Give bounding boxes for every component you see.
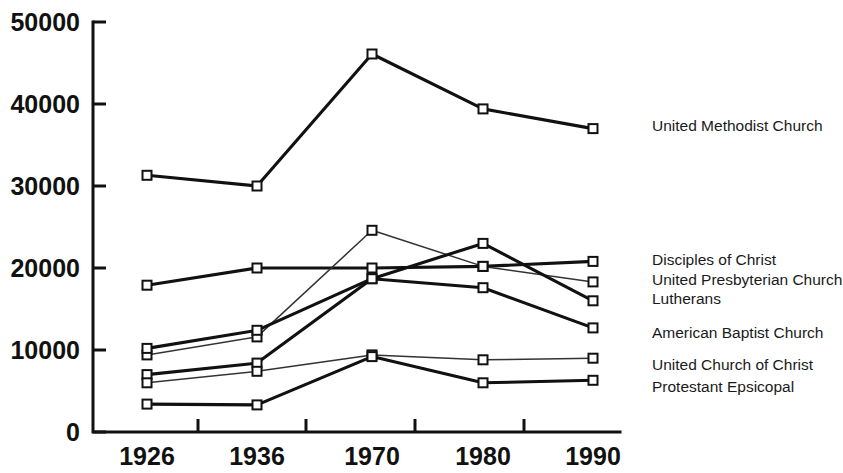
legend-label: American Baptist Church	[652, 324, 823, 341]
data-point-marker	[479, 239, 488, 248]
legend-label: Protestant Epsicopal	[652, 378, 794, 395]
series-line	[147, 357, 593, 405]
data-point-marker	[253, 264, 262, 273]
data-point-marker	[589, 376, 598, 385]
y-axis-tick-label: 0	[66, 418, 80, 446]
data-point-marker	[253, 400, 262, 409]
data-point-marker	[589, 277, 598, 286]
data-point-marker	[368, 352, 377, 361]
y-axis-tick-label: 40000	[10, 90, 80, 118]
series-line	[147, 243, 593, 348]
x-axis-tick-label: 1970	[344, 442, 400, 470]
data-point-marker	[589, 257, 598, 266]
x-axis-tick-label: 1936	[229, 442, 285, 470]
legend-label: United Methodist Church	[652, 117, 823, 134]
legend-label: United Church of Christ	[652, 356, 813, 373]
y-axis-tick-label: 30000	[10, 172, 80, 200]
x-axis-tick-label: 1980	[455, 442, 511, 470]
legend-label: Lutherans	[652, 290, 721, 307]
data-point-marker	[589, 124, 598, 133]
data-point-marker	[589, 323, 598, 332]
legend-label: Disciples of Christ	[652, 251, 776, 268]
x-axis-tick-labels: 19261936197019801990	[119, 442, 621, 470]
x-axis-tick-label: 1990	[565, 442, 621, 470]
legend-item-3: United Presbyterian Church	[652, 271, 842, 289]
x-axis-ticks	[198, 419, 524, 432]
legend-label: United Presbyterian Church	[652, 271, 842, 288]
data-point-marker	[143, 400, 152, 409]
legend-item-5: American Baptist Church	[652, 324, 823, 342]
data-point-marker	[479, 355, 488, 364]
y-axis-tick-label: 20000	[10, 254, 80, 282]
legend-item-6: United Church of Christ	[652, 356, 813, 374]
legend-item-7: Protestant Epsicopal	[652, 378, 794, 396]
data-point-marker	[143, 281, 152, 290]
y-axis-tick-label: 50000	[10, 8, 80, 36]
data-point-marker	[479, 283, 488, 292]
legend-item-4: Lutherans	[652, 290, 721, 308]
data-point-marker	[143, 344, 152, 353]
data-point-marker	[143, 378, 152, 387]
data-point-marker	[368, 226, 377, 235]
line-chart: 01000020000300004000050000 1926193619701…	[0, 0, 843, 473]
chart-marker-layer	[143, 50, 598, 410]
data-point-marker	[253, 367, 262, 376]
data-point-marker	[368, 50, 377, 59]
y-axis-tick-labels: 01000020000300004000050000	[10, 8, 80, 446]
data-point-marker	[479, 378, 488, 387]
data-point-marker	[479, 104, 488, 113]
data-point-marker	[589, 354, 598, 363]
legend-item-2: Disciples of Christ	[652, 251, 776, 269]
series-line	[147, 54, 593, 186]
legend-item-1: United Methodist Church	[652, 117, 823, 135]
data-point-marker	[143, 171, 152, 180]
data-point-marker	[589, 296, 598, 305]
data-point-marker	[253, 326, 262, 335]
data-point-marker	[368, 264, 377, 273]
data-point-marker	[479, 262, 488, 271]
x-axis-tick-label: 1926	[119, 442, 175, 470]
y-axis-ticks	[93, 22, 106, 432]
y-axis-tick-label: 10000	[10, 336, 80, 364]
data-point-marker	[368, 274, 377, 283]
data-point-marker	[253, 182, 262, 191]
chart-canvas: 01000020000300004000050000 1926193619701…	[0, 0, 843, 473]
